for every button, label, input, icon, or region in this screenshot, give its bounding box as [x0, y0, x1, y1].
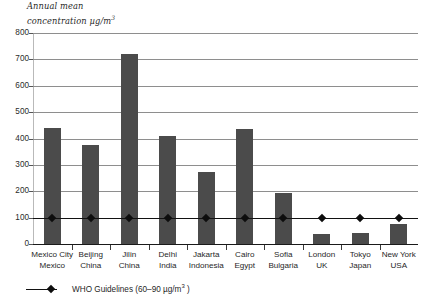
category-label-new-york: New YorkUSA [376, 250, 422, 271]
legend-label-prefix: WHO Guidelines [72, 285, 133, 294]
y-axis-tick-labels: 8007006005004003002001000 [0, 0, 29, 307]
y-axis-caption: Annual mean concentration µg/m3 [27, 1, 207, 28]
category-city: Jilin [122, 250, 136, 259]
legend-label-range: (60–90 µg/m [135, 285, 181, 294]
category-city: London [308, 250, 335, 259]
y-tick-label-200: 200 [3, 186, 29, 195]
category-city: Cairo [235, 250, 254, 259]
gridline-400 [33, 139, 418, 140]
bar-beijing [82, 145, 99, 244]
gridline-700 [33, 59, 418, 60]
bar-london [313, 234, 330, 244]
y-tick-label-100: 100 [3, 213, 29, 222]
diamond-marker-icon [395, 214, 403, 222]
category-city: Delhi [159, 250, 177, 259]
y-axis-caption-line2: concentration µg/m [27, 16, 111, 26]
y-axis-caption-exponent: 3 [111, 14, 115, 21]
y-tick-label-400: 400 [3, 134, 29, 143]
gridline-500 [33, 112, 418, 113]
y-tick-label-500: 500 [3, 107, 29, 116]
category-country: USA [376, 261, 422, 272]
bar-tokyo [352, 233, 369, 244]
y-tick-label-0: 0 [3, 239, 29, 248]
bar-mexico-city [44, 128, 61, 244]
bar-jakarta [198, 172, 215, 244]
diamond-marker-icon [47, 285, 55, 293]
y-axis-caption-line1: Annual mean [27, 1, 83, 11]
category-city: Jakarta [193, 250, 220, 259]
y-tick-label-300: 300 [3, 160, 29, 169]
air-quality-bar-chart: Annual mean concentration µg/m3 80070060… [0, 0, 431, 307]
category-city: Beijing [79, 250, 103, 259]
bar-new-york [390, 224, 407, 244]
y-tick-label-600: 600 [3, 81, 29, 90]
y-tick-label-800: 800 [3, 28, 29, 37]
category-city: Sofia [274, 250, 292, 259]
legend-label-suffix: ) [185, 285, 190, 294]
diamond-marker-icon [356, 214, 364, 222]
category-city: New York [382, 250, 416, 259]
gridline-600 [33, 86, 418, 87]
legend-label: WHO Guidelines (60–90 µg/m3 ) [72, 283, 190, 294]
y-tick-label-700: 700 [3, 54, 29, 63]
bar-delhi [159, 136, 176, 244]
category-city: Tokyo [350, 250, 371, 259]
diamond-marker-icon [318, 214, 326, 222]
gridline-800 [33, 33, 418, 34]
bar-cairo [236, 129, 253, 244]
plot-area [33, 33, 418, 244]
